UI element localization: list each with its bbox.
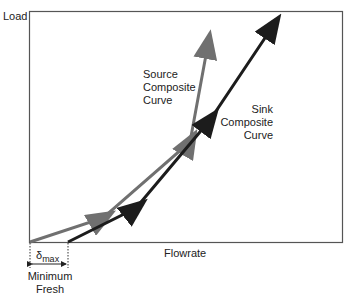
source-curve-label: SourceCompositeCurve bbox=[143, 68, 196, 107]
plot-frame bbox=[30, 12, 343, 243]
minimum-fresh-label: MinimumFresh bbox=[26, 270, 74, 296]
delta-max-label: δmax bbox=[36, 249, 59, 266]
sink-curve-label: SinkCompositeCurve bbox=[218, 103, 273, 142]
y-axis-label: Load bbox=[3, 10, 27, 23]
composite-curve-diagram: Load Flowrate SourceCompositeCurve SinkC… bbox=[0, 0, 353, 300]
x-axis-label: Flowrate bbox=[164, 247, 206, 260]
